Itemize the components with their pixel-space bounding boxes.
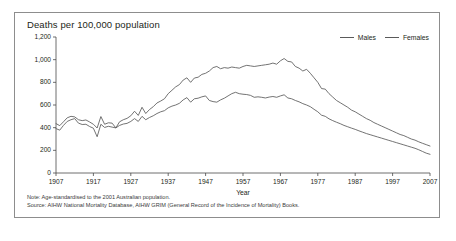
- series-line-males: [56, 59, 430, 147]
- x-axis-tick-label: 1957: [228, 178, 258, 185]
- plot-area: 02004006008001,0001,20019071917192719371…: [15, 13, 441, 219]
- x-axis-tick-label: 1927: [116, 178, 146, 185]
- footnotes: Note: Age-standardised to the 2001 Austr…: [27, 193, 299, 209]
- y-axis-tick-label: 200: [18, 146, 51, 153]
- y-axis-tick-label: 800: [18, 78, 51, 85]
- x-axis-tick-label: 1997: [378, 178, 408, 185]
- x-axis-tick-label: 2007: [415, 178, 445, 185]
- x-axis-tick-label: 1917: [78, 178, 108, 185]
- y-axis-tick-label: 1,000: [18, 56, 51, 63]
- x-axis-tick-label: 1987: [340, 178, 370, 185]
- x-axis-tick-label: 1967: [265, 178, 295, 185]
- x-axis-tick-label: 1977: [303, 178, 333, 185]
- footnote-note: Note: Age-standardised to the 2001 Austr…: [27, 193, 299, 201]
- y-axis-tick-label: 0: [18, 169, 51, 176]
- y-axis-tick-label: 600: [18, 101, 51, 108]
- x-axis-tick-label: 1907: [41, 178, 71, 185]
- x-axis-tick-label: 1947: [191, 178, 221, 185]
- y-axis-tick-label: 400: [18, 124, 51, 131]
- x-axis-tick-label: 1937: [153, 178, 183, 185]
- y-axis-tick-label: 1,200: [18, 33, 51, 40]
- figure-frame: Deaths per 100,000 population Males Fema…: [14, 12, 440, 218]
- footnote-source: Source: AIHW National Mortality Database…: [27, 201, 299, 209]
